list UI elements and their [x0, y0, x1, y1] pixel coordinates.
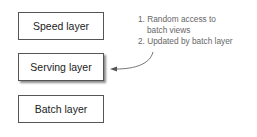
annotation-arrow-icon [0, 0, 257, 137]
